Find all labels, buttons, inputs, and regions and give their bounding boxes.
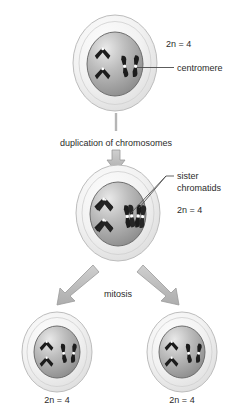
duplicated-cell: sister chromatids 2n = 4	[76, 165, 222, 261]
daughter-cell-left: 2n = 4	[22, 312, 92, 405]
duplication-step-label: duplication of chromosomes	[60, 138, 173, 148]
arrow-diagonal-down-right-icon	[137, 265, 179, 305]
sister-chromatids-label-line1: sister	[177, 171, 199, 181]
sister-chromatids-label-line2: chromatids	[177, 183, 222, 193]
arrow-diagonal-down-left-icon	[57, 265, 99, 305]
daughter-left-ploidy-label: 2n = 4	[44, 395, 69, 405]
daughter-right-ploidy-label: 2n = 4	[169, 395, 194, 405]
parent-ploidy-label: 2n = 4	[166, 39, 191, 49]
mitosis-step: mitosis	[57, 265, 179, 305]
mitosis-step-label: mitosis	[104, 289, 133, 299]
nucleus	[159, 326, 205, 378]
nucleus	[34, 326, 80, 378]
mitosis-diagram: 2n = 4 centromere duplication of chromos…	[0, 0, 236, 413]
parent-cell: 2n = 4 centromere	[73, 15, 223, 111]
duplication-step: duplication of chromosomes	[60, 113, 173, 172]
duplicated-ploidy-label: 2n = 4	[177, 205, 202, 215]
daughter-cell-right: 2n = 4	[147, 312, 217, 405]
centromere-label: centromere	[177, 63, 223, 73]
